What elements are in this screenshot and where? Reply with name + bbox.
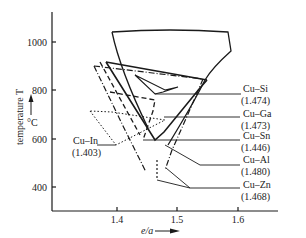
label-cu-si: Cu–Si	[243, 83, 268, 94]
x-tick-label-1.6: 1.6	[232, 214, 245, 225]
y-axis-unit: °C	[27, 117, 38, 128]
x-tick-label-1.4: 1.4	[111, 214, 124, 225]
label-cu-zn-value: (1.468)	[241, 191, 270, 203]
y-tick-label-1000: 1000	[27, 37, 47, 48]
series-cu-zn	[94, 66, 240, 188]
series-cu-al	[94, 66, 240, 170]
series-cu-si	[112, 30, 241, 145]
phase-diagram-chart: 1000 800 600 400 1.4 1.5 1.6 temperature…	[0, 0, 306, 238]
y-tick-label-800: 800	[32, 85, 47, 96]
label-cu-zn: Cu–Zn	[243, 179, 271, 190]
y-axis-title: temperature T	[14, 89, 25, 145]
label-cu-si-value: (1.474)	[241, 95, 270, 107]
y-axis-arrow-icon	[29, 94, 34, 115]
x-tick-label-1.5: 1.5	[171, 214, 184, 225]
label-cu-al-value: (1.480)	[241, 166, 270, 178]
label-cu-ga: Cu–Ga	[243, 108, 272, 119]
label-cu-in-value: (1.403)	[72, 147, 101, 159]
x-axis-title: e/a	[141, 225, 153, 236]
label-cu-in: Cu–In	[73, 135, 98, 146]
label-cu-al: Cu–Al	[243, 154, 270, 165]
label-cu-sn: Cu–Sn	[243, 130, 270, 141]
x-axis-arrow-icon	[155, 229, 180, 234]
y-tick-label-600: 600	[32, 134, 47, 145]
y-tick-label-400: 400	[32, 182, 47, 193]
series-cu-ga	[106, 62, 240, 140]
label-cu-sn-value: (1.446)	[241, 142, 270, 154]
